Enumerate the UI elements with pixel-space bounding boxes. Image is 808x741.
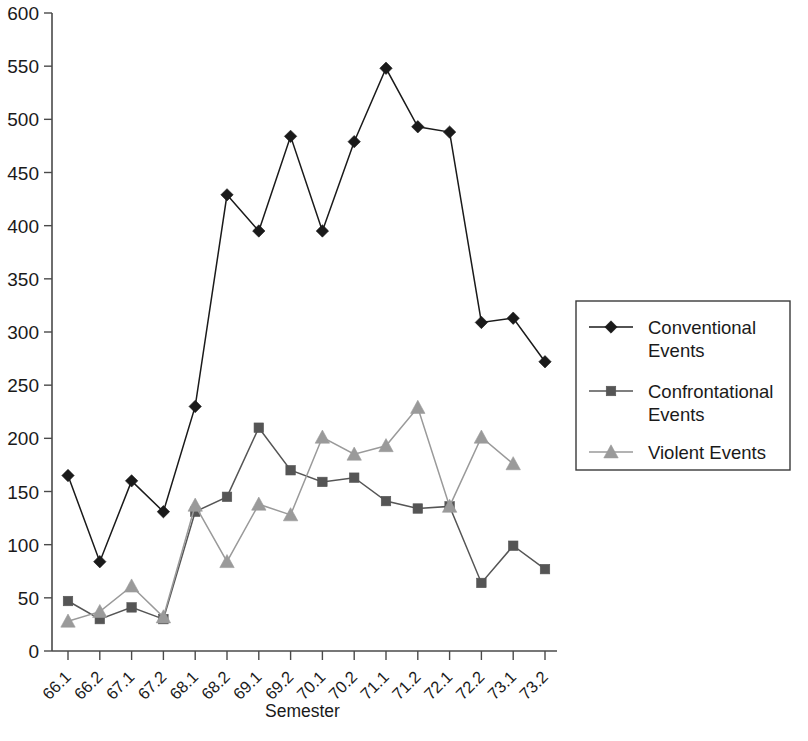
- series-line: [68, 428, 545, 619]
- y-tick-label: 300: [7, 322, 39, 343]
- square-marker: [477, 578, 487, 588]
- x-tick-label: 67.2: [134, 667, 169, 702]
- triangle-marker: [283, 508, 297, 521]
- y-axis: 600550500450400350300250200150100500: [7, 3, 52, 662]
- square-marker: [222, 492, 232, 502]
- y-tick-label: 450: [7, 163, 39, 184]
- diamond-marker: [316, 225, 328, 237]
- y-tick-label: 550: [7, 56, 39, 77]
- y-tick-label: 50: [18, 588, 39, 609]
- diamond-marker: [412, 121, 424, 133]
- x-tick-label: 66.2: [70, 667, 105, 702]
- chart-legend: ConventionalEventsConfrontationalEventsV…: [576, 301, 790, 470]
- diamond-marker: [443, 126, 455, 138]
- x-axis-title: Semester: [265, 701, 340, 721]
- series-line: [68, 68, 545, 561]
- square-marker: [254, 423, 263, 433]
- data-series-group: [61, 62, 551, 627]
- square-marker: [318, 477, 328, 487]
- x-tick-label: 67.1: [102, 667, 137, 702]
- square-marker: [127, 603, 137, 613]
- diamond-marker: [539, 356, 551, 368]
- square-marker: [413, 504, 423, 513]
- y-tick-label: 0: [28, 641, 39, 662]
- square-marker: [349, 473, 359, 483]
- diamond-marker: [380, 62, 392, 74]
- triangle-marker: [252, 497, 266, 510]
- diamond-marker: [189, 400, 201, 412]
- x-tick-label: 69.1: [229, 667, 264, 702]
- triangle-marker: [188, 498, 202, 511]
- series-conventional-events: [62, 62, 551, 568]
- x-tick-label: 70.1: [293, 667, 328, 702]
- x-tick-label: 72.1: [420, 667, 455, 702]
- y-tick-label: 400: [7, 216, 39, 237]
- triangle-marker: [506, 457, 520, 470]
- diamond-marker: [507, 312, 519, 324]
- square-marker: [381, 496, 391, 506]
- square-marker: [540, 564, 550, 574]
- y-tick-label: 200: [7, 428, 39, 449]
- x-tick-label: 70.2: [325, 667, 360, 702]
- square-marker: [606, 386, 616, 396]
- triangle-marker: [474, 430, 488, 443]
- triangle-marker: [61, 614, 75, 627]
- y-tick-label: 150: [7, 482, 39, 503]
- legend-label[interactable]: Conventional: [648, 317, 756, 338]
- y-tick-label: 350: [7, 269, 39, 290]
- line-chart: 600550500450400350300250200150100500 66.…: [0, 0, 808, 741]
- triangle-marker: [315, 430, 329, 443]
- series-violent-events: [61, 400, 521, 627]
- triangle-marker: [124, 579, 138, 592]
- legend-label-line2[interactable]: Events: [648, 340, 705, 361]
- square-marker: [63, 596, 73, 606]
- diamond-marker: [284, 130, 296, 142]
- x-tick-label: 73.1: [484, 667, 519, 702]
- legend-label-line2[interactable]: Events: [648, 404, 705, 425]
- diamond-marker: [62, 469, 74, 481]
- legend-label[interactable]: Confrontational: [648, 381, 773, 402]
- x-tick-label: 68.1: [166, 667, 201, 702]
- x-tick-label: 68.2: [198, 667, 233, 702]
- triangle-marker: [220, 554, 234, 567]
- y-tick-label: 100: [7, 535, 39, 556]
- y-tick-label: 500: [7, 109, 39, 130]
- square-marker: [508, 541, 518, 551]
- x-tick-label: 72.2: [452, 667, 487, 702]
- x-tick-label: 71.1: [357, 667, 392, 702]
- square-marker: [286, 465, 296, 475]
- diamond-marker: [475, 316, 487, 328]
- legend-label[interactable]: Violent Events: [648, 442, 766, 463]
- chart-canvas: 600550500450400350300250200150100500 66.…: [0, 0, 808, 741]
- x-tick-label: 71.2: [388, 667, 423, 702]
- diamond-marker: [94, 555, 106, 567]
- series-confrontational-events: [63, 423, 550, 624]
- x-tick-label: 73.2: [516, 667, 551, 702]
- x-tick-label: 66.1: [39, 667, 74, 702]
- diamond-marker: [348, 135, 360, 147]
- triangle-marker: [93, 604, 107, 617]
- triangle-marker: [411, 400, 425, 413]
- y-tick-label: 250: [7, 375, 39, 396]
- x-axis: 66.166.267.167.268.168.269.169.270.170.2…: [39, 651, 557, 703]
- x-tick-label: 69.2: [261, 667, 296, 702]
- y-tick-label: 600: [7, 3, 39, 24]
